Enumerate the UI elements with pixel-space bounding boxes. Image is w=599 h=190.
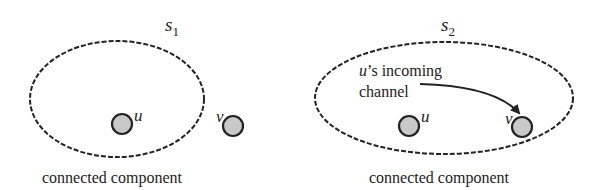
caption-connected-component: connected component [42, 169, 183, 187]
caption-connected-component: connected component [369, 169, 510, 187]
annotation-incoming-channel-line1: u’s incoming [359, 62, 442, 80]
node-u [399, 116, 419, 136]
diagram-canvas: s1 u v connected component s2 u’s incomi… [0, 0, 599, 190]
annotation-incoming-channel-line2: channel [359, 83, 409, 100]
node-u-label: u [134, 106, 143, 125]
panel-title-s2: s2 [441, 14, 455, 39]
panel-s1: s1 u v connected component [30, 14, 243, 187]
connected-component-boundary [315, 42, 573, 154]
connected-component-boundary [30, 41, 204, 157]
node-u [112, 114, 132, 134]
panel-s2: s2 u’s incoming channel u v connected co… [315, 14, 573, 187]
panel-title-s1: s1 [165, 14, 179, 39]
node-v [512, 117, 532, 137]
node-v [223, 116, 243, 136]
node-v-label: v [216, 107, 224, 126]
node-u-label: u [421, 107, 430, 126]
node-v-label: v [505, 109, 513, 128]
